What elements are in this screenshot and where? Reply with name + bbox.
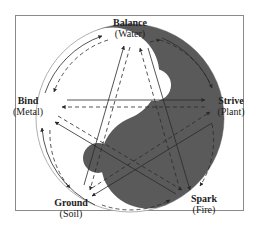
node-strive: Strive (Plant) [212,95,250,117]
node-element: (Water) [104,28,156,39]
node-element: (Soil) [48,208,94,219]
node-element: (Fire) [184,204,224,215]
node-spark: Spark (Fire) [184,193,224,215]
node-name: Balance [104,17,156,28]
node-name: Ground [48,197,94,208]
node-element: (Plant) [212,106,250,117]
node-name: Spark [184,193,224,204]
node-element: (Metal) [8,106,48,117]
node-bind: Bind (Metal) [8,95,48,117]
node-balance: Balance (Water) [104,17,156,39]
yang-dot [139,69,171,101]
node-ground: Ground (Soil) [48,197,94,219]
node-name: Strive [212,95,250,106]
node-name: Bind [8,95,48,106]
